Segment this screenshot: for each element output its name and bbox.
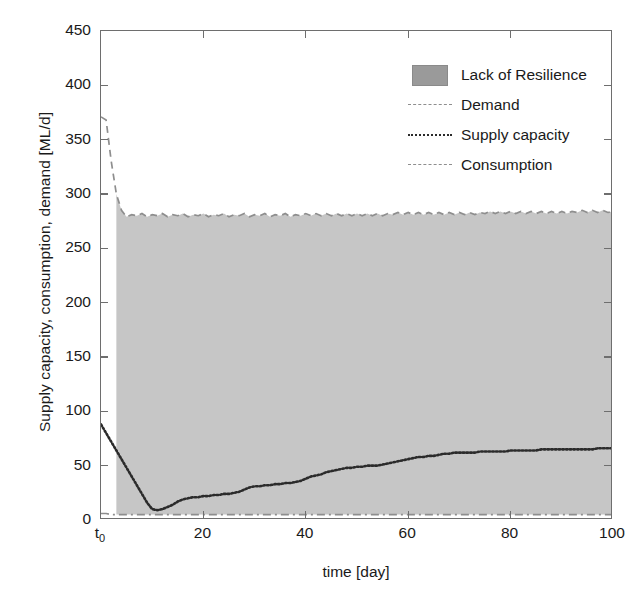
y-tick-label: 100	[65, 401, 91, 419]
legend-patch-icon	[408, 64, 452, 86]
series-supply-capacity	[101, 424, 612, 510]
y-tick-label: 150	[65, 347, 91, 365]
series-consumption	[101, 513, 612, 514]
x-tick-label: 80	[501, 524, 518, 542]
y-axis-title: Supply capacity, consumption, demand [ML…	[36, 37, 54, 507]
legend-label: Lack of Resilience	[461, 66, 587, 84]
y-tick-label: 450	[65, 21, 91, 39]
x-tick	[203, 31, 204, 38]
y-tick-label: 300	[65, 184, 91, 202]
y-tick	[101, 248, 108, 249]
legend-item-consumption[interactable]: Consumption	[408, 150, 623, 180]
x-tick	[203, 511, 204, 518]
y-tick	[101, 302, 108, 303]
x-tick	[408, 31, 409, 38]
x-tick	[408, 511, 409, 518]
legend-dashed-icon	[408, 94, 452, 116]
x-tick-label: 60	[399, 524, 416, 542]
x-tick	[305, 31, 306, 38]
legend-item-lack-of-resilience[interactable]: Lack of Resilience	[408, 60, 623, 90]
y-tick	[101, 411, 108, 412]
x-tick-label: 20	[194, 524, 211, 542]
x-tick-label: 100	[599, 524, 625, 542]
legend-line	[408, 134, 452, 136]
legend-dotted-icon	[408, 124, 452, 146]
y-tick-label: 50	[74, 456, 91, 474]
y-tick-label: 350	[65, 130, 91, 148]
y-tick	[604, 302, 611, 303]
y-tick	[604, 356, 611, 357]
y-tick-label: 250	[65, 238, 91, 256]
y-tick-label: 200	[65, 293, 91, 311]
legend-item-demand[interactable]: Demand	[408, 90, 623, 120]
y-tick-label: 400	[65, 75, 91, 93]
legend-label: Supply capacity	[461, 126, 570, 144]
y-tick	[101, 85, 108, 86]
x-tick-label: t0	[95, 524, 105, 544]
y-tick	[101, 356, 108, 357]
x-tick-label: 40	[296, 524, 313, 542]
legend-swatch	[412, 65, 448, 86]
legend-label: Consumption	[461, 156, 552, 174]
x-tick	[305, 511, 306, 518]
y-tick	[101, 193, 108, 194]
y-tick	[604, 411, 611, 412]
legend-label: Demand	[461, 96, 520, 114]
y-tick	[101, 465, 108, 466]
y-tick-label: 0	[82, 510, 91, 528]
y-tick	[101, 139, 108, 140]
y-tick	[604, 193, 611, 194]
y-tick	[604, 248, 611, 249]
x-tick	[510, 511, 511, 518]
x-axis-title: time [day]	[100, 563, 612, 581]
legend-line	[408, 104, 452, 105]
y-tick	[604, 465, 611, 466]
chart-legend: Lack of ResilienceDemandSupply capacityC…	[408, 60, 623, 180]
chart-figure: Supply capacity, consumption, demand [ML…	[0, 0, 643, 604]
legend-line	[408, 164, 452, 165]
legend-dashdot-icon	[408, 154, 452, 176]
x-tick	[510, 31, 511, 38]
legend-item-supply-capacity[interactable]: Supply capacity	[408, 120, 623, 150]
